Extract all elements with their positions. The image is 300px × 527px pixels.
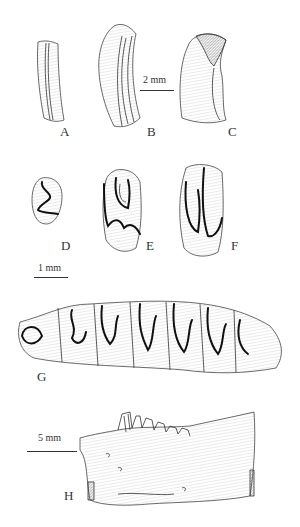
scale-label-5mm: 5 mm [38, 432, 61, 443]
figure-plate: A B 2 mm C D E F 1 mm [0, 0, 300, 527]
panel-label-f: F [231, 238, 238, 254]
panel-g-drawing [14, 296, 286, 382]
panel-label-a: A [60, 124, 69, 140]
panel-label-b: B [147, 124, 156, 140]
scale-label-1mm: 1 mm [38, 262, 61, 273]
panel-a-drawing [30, 38, 70, 128]
scale-bar-5mm [27, 451, 77, 452]
panel-d-drawing [30, 176, 66, 228]
scale-bar-1mm [34, 277, 68, 278]
panel-h-drawing [78, 410, 258, 516]
panel-label-d: D [61, 238, 70, 254]
panel-label-h: H [64, 488, 73, 504]
scale-bar-2mm [140, 90, 174, 91]
panel-c-drawing [178, 32, 230, 126]
scale-label-2mm: 2 mm [143, 74, 166, 85]
panel-label-g: G [37, 369, 46, 385]
panel-label-c: C [228, 124, 237, 140]
panel-label-e: E [146, 238, 154, 254]
panel-f-drawing [174, 162, 226, 262]
panel-e-drawing [100, 168, 146, 256]
